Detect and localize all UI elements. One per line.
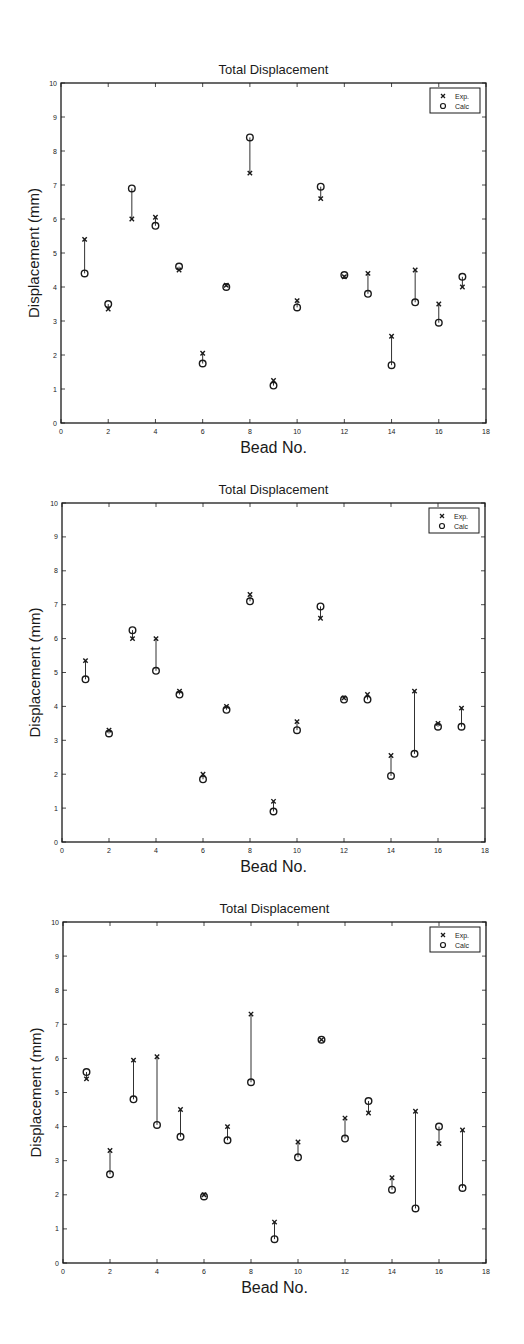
x-axis-label: Bead No.	[240, 858, 307, 875]
y-tick-label: 8	[55, 987, 59, 994]
bead-pair	[199, 351, 206, 367]
x-tick-label: 0	[59, 428, 63, 435]
bead-pair	[295, 1140, 302, 1161]
bead-pair	[342, 1116, 349, 1142]
y-tick-label: 6	[55, 1055, 59, 1062]
y-axis: 012345678910	[51, 919, 486, 1267]
x-tick-label: 4	[153, 428, 157, 435]
x-tick-label: 12	[340, 847, 348, 854]
bead-pair	[294, 298, 301, 310]
bead-pair	[271, 1220, 278, 1243]
bead-pair	[459, 274, 466, 290]
bead-pair	[153, 636, 160, 674]
legend-calc-label: Calc	[455, 103, 470, 110]
chart-title: Total Displacement	[220, 901, 330, 916]
chart-panel-1: Total Displacement0246810121416180123456…	[0, 0, 524, 460]
legend: Exp.Calc	[430, 88, 480, 113]
y-tick-label: 10	[49, 80, 57, 87]
x-tick-label: 6	[201, 847, 205, 854]
legend-exp-label: Exp.	[455, 932, 469, 940]
x-tick-label: 4	[154, 847, 158, 854]
y-tick-label: 9	[54, 533, 58, 540]
bead-pair	[154, 1054, 161, 1128]
bead-pair	[270, 799, 277, 815]
legend-exp-label: Exp.	[454, 513, 468, 521]
bead-pair	[107, 1148, 114, 1177]
y-tick-label: 8	[53, 148, 57, 155]
x-tick-label: 8	[249, 1268, 253, 1275]
y-tick-label: 2	[53, 352, 57, 359]
y-tick-label: 4	[55, 1123, 59, 1130]
legend: Exp.Calc	[429, 508, 479, 533]
y-tick-label: 1	[54, 805, 58, 812]
bead-pair	[458, 706, 465, 730]
y-tick-label: 1	[55, 1225, 59, 1232]
bead-pair	[176, 689, 183, 698]
plot-frame	[61, 83, 486, 423]
x-tick-label: 16	[435, 1268, 443, 1275]
x-tick-label: 14	[387, 847, 395, 854]
y-tick-label: 7	[55, 1021, 59, 1028]
legend-calc-label: Calc	[455, 942, 470, 949]
y-axis: 012345678910	[50, 500, 485, 846]
bead-pair	[365, 271, 372, 297]
y-axis: 012345678910	[49, 80, 486, 427]
chart-panel-3: Total Displacement0246810121416180123456…	[0, 890, 524, 1344]
bead-pair	[341, 696, 348, 703]
x-tick-label: 6	[201, 428, 205, 435]
bead-pair	[129, 627, 136, 641]
plot-frame	[63, 922, 486, 1263]
bead-pair	[388, 753, 395, 779]
data-points	[81, 134, 465, 389]
y-tick-label: 5	[55, 1089, 59, 1096]
y-tick-label: 9	[55, 953, 59, 960]
bead-pair	[412, 1109, 419, 1212]
scatter-chart-2: Total Displacement0246810121416180123456…	[0, 460, 524, 890]
y-tick-label: 6	[54, 635, 58, 642]
legend-exp-label: Exp.	[455, 93, 469, 101]
y-axis-label: Displacement (mm)	[26, 607, 43, 737]
bead-pair	[201, 1193, 208, 1200]
bead-pair	[459, 1128, 466, 1191]
x-tick-label: 16	[434, 847, 442, 854]
bead-pair	[129, 185, 136, 221]
bead-pair	[152, 215, 159, 229]
y-axis-label: Displacement (mm)	[27, 1027, 44, 1157]
x-axis: 024681012141618	[60, 503, 489, 854]
legend-calc-label: Calc	[454, 523, 469, 530]
y-tick-label: 0	[54, 839, 58, 846]
bead-pair	[364, 692, 371, 703]
bead-pair	[365, 1098, 372, 1115]
bead-pair	[176, 263, 183, 272]
x-tick-label: 0	[60, 847, 64, 854]
data-points	[82, 592, 465, 814]
bead-pair	[106, 728, 113, 737]
x-tick-label: 6	[202, 1268, 206, 1275]
x-tick-label: 2	[106, 428, 110, 435]
bead-pair	[130, 1058, 137, 1103]
x-tick-label: 10	[294, 1268, 302, 1275]
bead-pair	[223, 283, 230, 290]
bead-pair	[224, 1124, 231, 1143]
y-tick-label: 10	[51, 919, 59, 926]
chart-title: Total Displacement	[219, 62, 329, 77]
plot-frame	[62, 503, 485, 842]
y-tick-label: 3	[54, 737, 58, 744]
bead-pair	[223, 704, 230, 713]
y-tick-label: 2	[55, 1191, 59, 1198]
y-tick-label: 0	[53, 420, 57, 427]
bead-pair	[412, 268, 419, 306]
y-tick-label: 6	[53, 216, 57, 223]
y-tick-label: 3	[55, 1157, 59, 1164]
x-tick-label: 16	[435, 428, 443, 435]
bead-pair	[248, 1012, 255, 1086]
x-axis-label: Bead No.	[241, 1279, 308, 1296]
bead-pair	[317, 603, 324, 620]
chart-panel-2: Total Displacement0246810121416180123456…	[0, 460, 524, 890]
x-tick-label: 8	[248, 847, 252, 854]
bead-pair	[435, 302, 442, 326]
bead-pair	[105, 301, 112, 312]
x-tick-label: 4	[155, 1268, 159, 1275]
scatter-chart-1: Total Displacement0246810121416180123456…	[0, 0, 524, 460]
bead-pair	[435, 721, 442, 730]
